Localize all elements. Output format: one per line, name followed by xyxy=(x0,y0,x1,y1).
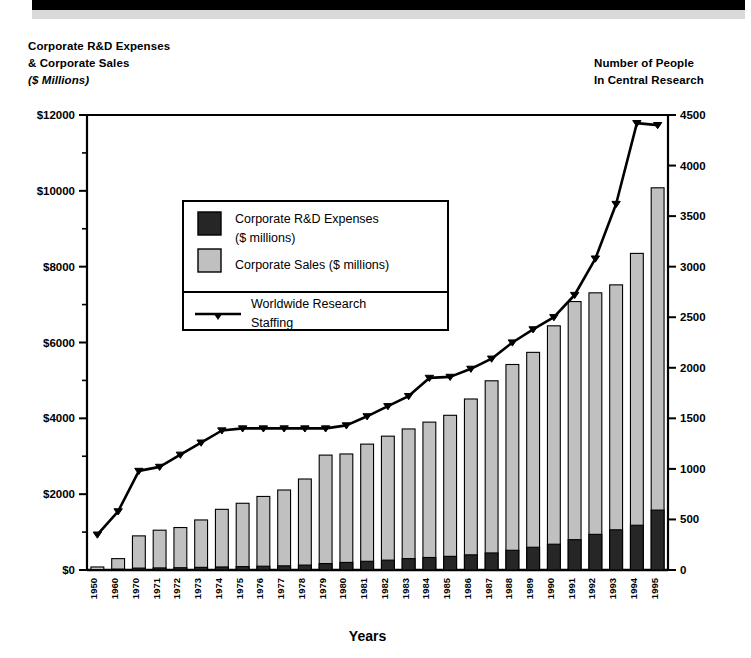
chart-canvas: $0$2000$4000$6000$8000$10000$12000 05001… xyxy=(0,0,751,658)
year-label: 1991 xyxy=(566,577,577,599)
legend-swatch-sales xyxy=(198,249,221,272)
bar-sales xyxy=(361,444,374,570)
year-label: 1975 xyxy=(234,577,245,599)
y-tick-label: $8000 xyxy=(43,261,75,273)
legend-label-rd-line2: ($ millions) xyxy=(235,231,295,245)
bar-rd xyxy=(278,566,291,570)
x-axis-title: Years xyxy=(349,628,387,644)
staffing-marker xyxy=(612,201,620,207)
y2-tick-label: 3500 xyxy=(680,210,706,222)
bar-rd xyxy=(485,553,498,570)
year-label: 1980 xyxy=(337,578,348,599)
bar-sales xyxy=(506,364,519,570)
year-label: 1974 xyxy=(213,577,224,599)
bar-sales xyxy=(568,302,581,570)
legend-swatch-rd xyxy=(198,212,221,235)
y-tick-label: $6000 xyxy=(43,337,75,349)
bar-sales xyxy=(527,352,540,570)
bar-sales xyxy=(257,496,270,570)
year-label: 1977 xyxy=(275,578,286,599)
year-label: 1990 xyxy=(545,578,556,599)
bar-rd xyxy=(340,562,353,570)
bar-rd xyxy=(506,550,519,570)
bar-sales xyxy=(381,436,394,570)
bar-rd xyxy=(610,530,623,570)
bar-sales xyxy=(610,285,623,570)
bar-rd xyxy=(381,560,394,570)
y-axis-right-ticks: 050010001500200025003000350040004500 xyxy=(668,109,706,576)
y2-tick-label: 2000 xyxy=(680,362,706,374)
y2-tick-label: 500 xyxy=(680,513,699,525)
year-label: 1976 xyxy=(254,578,265,599)
year-label: 1960 xyxy=(109,578,120,599)
bar-rd xyxy=(568,540,581,570)
bar-sales xyxy=(319,455,332,570)
bar-sales xyxy=(340,454,353,570)
year-label: 1971 xyxy=(151,577,162,599)
bar-sales xyxy=(174,528,187,570)
bar-rd xyxy=(153,568,166,570)
year-label: 1985 xyxy=(441,577,452,599)
bar-sales xyxy=(444,415,457,570)
y-axis-left-ticks: $0$2000$4000$6000$8000$10000$12000 xyxy=(37,109,87,576)
bar-rd xyxy=(257,566,270,570)
chart-legend: Corporate R&D Expenses($ millions)Corpor… xyxy=(183,201,448,330)
bar-sales xyxy=(236,503,249,570)
year-label: 1979 xyxy=(317,578,328,599)
legend-label-staffing-line1: Worldwide Research xyxy=(251,297,366,311)
bar-sales xyxy=(402,429,415,570)
bar-rd xyxy=(112,569,125,570)
year-label: 1978 xyxy=(296,578,307,599)
bar-rd xyxy=(132,568,145,570)
bar-rd xyxy=(547,544,560,570)
year-label: 1970 xyxy=(130,578,141,599)
x-axis-year-labels: 1950196019701971197219731974197519761977… xyxy=(88,577,659,599)
y-tick-label: $0 xyxy=(62,564,75,576)
year-label: 1986 xyxy=(462,578,473,599)
bar-sales xyxy=(547,326,560,570)
bar-sales xyxy=(112,559,125,570)
bar-rd xyxy=(298,565,311,570)
year-label: 1973 xyxy=(192,578,203,599)
bar-rd xyxy=(589,534,602,570)
bar-rd xyxy=(630,525,643,570)
year-label: 1993 xyxy=(607,578,618,599)
year-label: 1984 xyxy=(420,577,431,599)
bar-rd xyxy=(402,559,415,570)
y2-tick-label: 3000 xyxy=(680,261,706,273)
bar-sales xyxy=(215,509,228,570)
bar-sales xyxy=(278,490,291,570)
y2-tick-label: 2500 xyxy=(680,311,706,323)
bar-sales xyxy=(589,293,602,570)
bar-sales xyxy=(132,536,145,570)
bar-rd xyxy=(361,561,374,570)
bar-rd xyxy=(236,567,249,570)
x-axis-title-text: Years xyxy=(349,628,387,644)
bar-sales xyxy=(464,399,477,570)
bar-rd xyxy=(527,547,540,570)
bar-sales xyxy=(630,253,643,570)
y2-tick-label: 4500 xyxy=(680,109,706,121)
year-label: 1995 xyxy=(649,577,660,599)
bar-rd xyxy=(174,568,187,570)
bar-sales xyxy=(298,479,311,570)
y2-tick-label: 1000 xyxy=(680,463,706,475)
y-tick-label: $4000 xyxy=(43,412,75,424)
y-tick-label: $2000 xyxy=(43,488,75,500)
year-label: 1982 xyxy=(379,578,390,599)
bar-rd xyxy=(215,567,228,570)
staffing-marker xyxy=(93,532,101,538)
year-label: 1992 xyxy=(586,578,597,599)
legend-label-staffing-line2: Staffing xyxy=(251,316,293,330)
year-label: 1988 xyxy=(503,578,514,599)
y2-tick-label: 1500 xyxy=(680,412,706,424)
year-label: 1981 xyxy=(358,577,369,599)
legend-label-rd-line1: Corporate R&D Expenses xyxy=(235,212,379,226)
bar-rd xyxy=(195,567,208,570)
year-label: 1994 xyxy=(628,577,639,599)
y-tick-label: $12000 xyxy=(37,109,75,121)
bar-rd xyxy=(423,557,436,570)
year-label: 1972 xyxy=(171,578,182,599)
bar-sales xyxy=(153,530,166,570)
bar-rd xyxy=(444,556,457,570)
